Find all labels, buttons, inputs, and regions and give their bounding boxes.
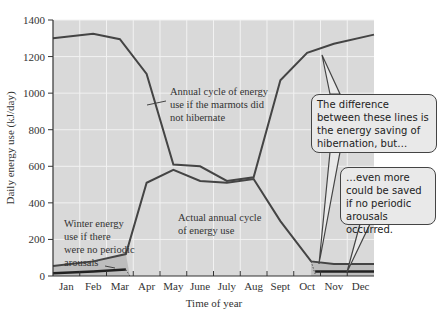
x-tick-label: Nov [324, 280, 343, 292]
y-tick-label: 800 [29, 124, 46, 136]
callout-arousals: …even more could be saved if no periodic… [340, 167, 436, 225]
energy-chart: 0200400600800100012001400JanFebMarAprMay… [0, 0, 442, 314]
x-tick-label: Feb [85, 280, 102, 292]
callout-energy-saving-text: The difference between these lines is th… [317, 99, 429, 149]
x-tick-label: July [218, 280, 237, 292]
callout-energy-saving: The difference between these lines is th… [311, 94, 437, 153]
x-tick-label: Mar [111, 280, 130, 292]
x-tick-label: Jan [59, 280, 74, 292]
x-tick-label: Oct [299, 280, 315, 292]
y-tick-label: 600 [29, 160, 46, 172]
x-tick-label: Aug [244, 280, 263, 292]
x-tick-label: Dec [352, 280, 370, 292]
x-tick-label: June [190, 280, 210, 292]
y-axis-title: Daily energy use (kJ/day) [4, 91, 17, 204]
y-tick-label: 200 [29, 233, 46, 245]
y-tick-label: 1200 [23, 51, 46, 63]
x-tick-label: May [163, 280, 184, 292]
y-tick-label: 400 [29, 197, 46, 209]
x-axis-title: Time of year [186, 297, 243, 309]
x-tick-label: Sept [271, 280, 291, 292]
x-tick-label: Apr [138, 280, 155, 292]
y-tick-label: 0 [40, 270, 46, 282]
y-tick-label: 1000 [23, 87, 46, 99]
y-tick-label: 1400 [23, 14, 46, 26]
